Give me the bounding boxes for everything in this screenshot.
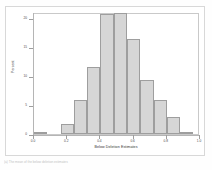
histogram-bar — [87, 67, 100, 134]
x-axis-tick-label: 1.0 — [192, 140, 206, 143]
histogram-bar — [180, 132, 193, 134]
x-axis-tick-label: 0.8 — [159, 140, 173, 143]
histogram-bar — [100, 14, 113, 134]
y-axis-tick — [29, 48, 33, 49]
figure-container: 05101520 Percent 0.00.20.40.60.81.0 Belo… — [0, 0, 212, 170]
histogram-bar — [61, 124, 74, 134]
y-axis-tick-label: 20 — [15, 17, 27, 20]
y-axis-tick — [29, 106, 33, 107]
x-axis-line — [33, 135, 199, 136]
histogram-bar — [34, 132, 47, 134]
y-axis-tick — [29, 77, 33, 78]
histogram-bar — [114, 13, 127, 134]
figure-caption: (a) The mean of the below deletion estim… — [4, 160, 208, 164]
y-axis-tick-label: 10 — [15, 75, 27, 78]
y-axis-line — [33, 13, 34, 135]
histogram-bar — [154, 100, 167, 134]
y-axis-title: Percent — [12, 55, 15, 79]
histogram-bars — [34, 14, 198, 134]
histogram-bar — [140, 80, 153, 134]
chart-card: 05101520 Percent 0.00.20.40.60.81.0 Belo… — [5, 6, 205, 156]
y-axis-tick — [29, 19, 33, 20]
x-axis-tick-label: 0.6 — [126, 140, 140, 143]
x-axis-tick-label: 0.0 — [26, 140, 40, 143]
y-axis-tick-label: 15 — [15, 46, 27, 49]
x-axis-tick-label: 0.2 — [59, 140, 73, 143]
histogram-bar — [127, 39, 140, 134]
y-axis-tick-label: 5 — [15, 104, 27, 107]
histogram-bar — [74, 100, 87, 134]
x-axis-tick-label: 0.4 — [92, 140, 106, 143]
plot-area — [33, 13, 199, 135]
histogram-bar — [167, 117, 180, 134]
y-axis-tick-label: 0 — [15, 133, 27, 136]
x-axis-title: Below Deletion Estimates — [33, 146, 199, 150]
